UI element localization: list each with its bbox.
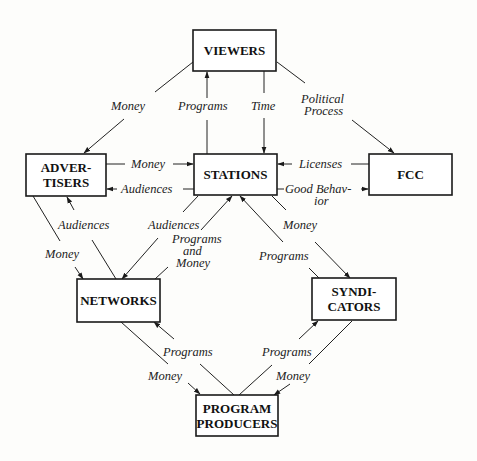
flow-diagram: Money Programs Time Political Process Mo… — [0, 0, 477, 461]
node-advertisers: ADVER- TISERS — [26, 154, 106, 196]
node-fcc: FCC — [369, 154, 452, 195]
edge-advertisers-to-networks: Money — [33, 196, 83, 279]
edge-label-money: Money — [110, 99, 145, 113]
edge-label-money: Money — [44, 247, 79, 261]
node-stations: STATIONS — [194, 154, 277, 195]
edge-stations-to-syndicators: Money — [272, 196, 350, 278]
node-viewers: VIEWERS — [193, 30, 276, 71]
edge-syndicators-to-stations: Programs — [240, 196, 319, 278]
node-label: NETWORKS — [80, 293, 157, 308]
edge-label-programs: Programs — [162, 345, 213, 359]
edge-viewers-to-advertisers: Money — [84, 62, 193, 153]
node-label-line2: TISERS — [43, 175, 89, 190]
node-label: FCC — [397, 167, 424, 182]
edge-label-money: Money — [275, 369, 310, 383]
edge-stations-to-viewers: Programs — [177, 72, 228, 154]
edge-viewers-to-fcc: Political Process — [277, 62, 394, 153]
node-label-line2: PRODUCERS — [197, 416, 278, 431]
node-label-line1: ADVER- — [41, 160, 92, 175]
edge-label-audiences: Audiences — [57, 218, 110, 232]
edge-advertisers-to-stations: Money — [106, 157, 193, 171]
edge-label-money: Money — [130, 157, 165, 171]
edge-label-time: Time — [251, 99, 276, 113]
edge-label-audiences: Audiences — [120, 182, 173, 196]
edge-label-ior: ior — [314, 194, 329, 208]
edge-label-money: Money — [282, 218, 317, 232]
edge-networks-to-stations: Programs and Money — [155, 196, 232, 279]
node-label-line2: CATORS — [328, 299, 381, 314]
edge-producers-to-syndicators: Programs — [239, 321, 318, 395]
node-networks: NETWORKS — [77, 279, 160, 322]
edge-label-programs: Programs — [261, 345, 312, 359]
edge-label-programs: Programs — [258, 249, 309, 263]
node-label: STATIONS — [204, 167, 268, 182]
node-label-line1: SYNDI- — [332, 284, 377, 299]
node-label-line1: PROGRAM — [203, 401, 272, 416]
edge-stations-to-advertisers: Audiences — [107, 182, 194, 196]
node-syndicators: SYNDI- CATORS — [312, 278, 396, 320]
edge-networks-to-advertisers: Audiences — [57, 197, 116, 279]
edge-fcc-to-stations: Licenses — [278, 157, 369, 171]
edge-label-programs: Programs — [177, 99, 228, 113]
edge-stations-to-fcc: Good Behav- ior — [277, 182, 368, 208]
node-program-producers: PROGRAM PRODUCERS — [196, 395, 278, 436]
edge-label-money: Money — [147, 369, 182, 383]
edge-label-money: Money — [175, 256, 210, 270]
edge-producers-to-networks: Programs — [154, 322, 234, 395]
edge-label-process: Process — [303, 104, 343, 118]
node-label: VIEWERS — [204, 43, 265, 58]
edge-label-audiences: Audiences — [147, 218, 200, 232]
edge-label-licenses: Licenses — [298, 157, 342, 171]
edge-viewers-to-stations: Time — [251, 71, 276, 153]
